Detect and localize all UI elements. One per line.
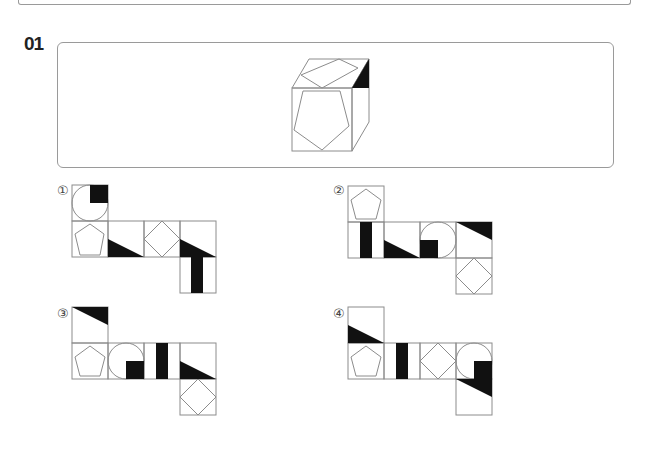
option-4-net[interactable] <box>0 0 647 449</box>
